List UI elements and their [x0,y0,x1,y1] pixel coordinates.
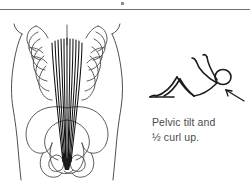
stick-figure-arms [192,55,217,83]
exercise-illustration [146,52,250,110]
ribcage-right [82,26,107,100]
stick-figure-torso [194,83,217,96]
top-divider-rule [0,9,250,10]
caption-line-2: ½ curl up. [152,130,248,145]
annotation-arrow [226,90,244,101]
anatomy-illustration [0,12,135,182]
torso-outline-right [112,24,123,180]
torso-outline-left [12,24,23,180]
stick-figure-legs [150,77,194,97]
rectus-abdominis-fibers [52,38,82,162]
figure-panel: Pelvic tilt and ½ curl up. [0,0,250,182]
stick-figure-head [215,70,231,85]
caption-line-1: Pelvic tilt and [152,115,248,130]
scan-artifact-speck [121,2,124,5]
figure-caption: Pelvic tilt and ½ curl up. [152,115,248,145]
ribcage-left [27,26,52,100]
